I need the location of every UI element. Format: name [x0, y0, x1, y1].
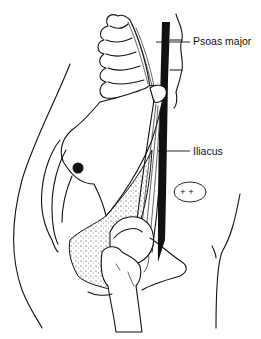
lumbar-vertebrae — [98, 15, 154, 99]
psoas-major-muscle — [158, 22, 170, 262]
label-psoas-major: Psoas major — [193, 36, 251, 47]
ilium — [61, 85, 164, 216]
body-outline-right — [216, 194, 240, 328]
marker-plus-text: + + — [180, 187, 194, 197]
label-iliacus: Iliacus — [193, 146, 223, 157]
anatomy-illustration — [0, 0, 261, 339]
foramen-dot — [73, 163, 84, 174]
